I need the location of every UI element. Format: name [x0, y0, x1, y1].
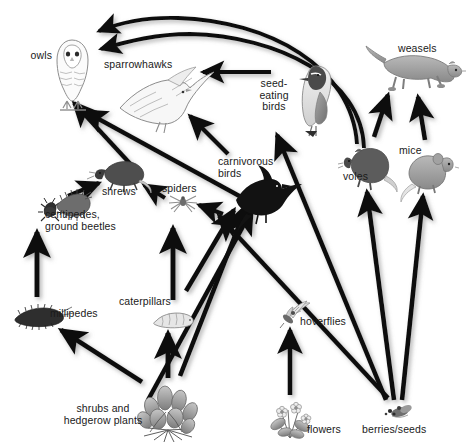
- label-weasels: weasels: [398, 43, 437, 55]
- spider-icon: [169, 196, 197, 212]
- flower-icon: [269, 402, 311, 439]
- label-owls: owls: [6, 50, 52, 62]
- sparrowhawk-icon: [120, 67, 214, 133]
- caterpillar-icon: [154, 313, 194, 328]
- label-berries-seeds: berries/seeds: [362, 424, 426, 436]
- label-centipedes-ground-beetles: centipedes, ground beetles: [45, 209, 116, 232]
- food-web-diagram: owls sparrowhawks weasels seed- eating b…: [0, 0, 469, 448]
- mouse-icon: [401, 154, 459, 203]
- label-seed-eating-birds: seed- eating birds: [252, 78, 296, 113]
- label-millipedes: millipedes: [50, 308, 98, 320]
- label-flowers: flowers: [307, 424, 341, 436]
- label-mice: mice: [399, 145, 422, 157]
- seed-eating-bird-icon: [299, 66, 331, 137]
- label-shrubs-hedgerow-plants: shrubs and hedgerow plants: [48, 403, 158, 426]
- label-hoverflies: hoverflies: [300, 316, 346, 328]
- label-spiders: spiders: [162, 183, 197, 195]
- label-voles: voles: [343, 171, 368, 183]
- owl-icon: [57, 40, 88, 110]
- berries-seeds-icon: [385, 404, 413, 419]
- label-caterpillars: caterpillars: [119, 296, 171, 308]
- label-carnivorous-birds: carnivorous birds: [218, 156, 273, 179]
- label-sparrowhawks: sparrowhawks: [104, 59, 172, 71]
- label-shrews: shrews: [102, 186, 136, 198]
